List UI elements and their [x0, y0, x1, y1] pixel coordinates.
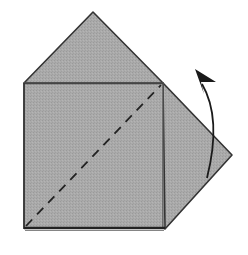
- origami-diagram: [0, 0, 248, 255]
- right-triangle-flap: [163, 83, 232, 229]
- top-triangle-flap: [24, 12, 163, 83]
- diagram-canvas: [0, 0, 248, 255]
